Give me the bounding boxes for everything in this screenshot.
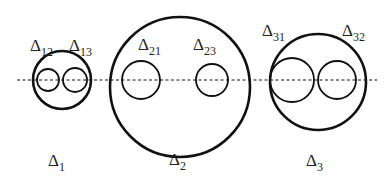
label-delta-1: Δ1 [48, 151, 65, 174]
label-delta-32: Δ32 [342, 21, 365, 44]
label-delta-12: Δ12 [30, 36, 53, 59]
label-delta-13: Δ13 [69, 36, 92, 59]
label-delta-2: Δ2 [169, 150, 186, 173]
label-delta-3: Δ3 [306, 151, 323, 174]
label-delta-23: Δ23 [193, 35, 216, 58]
label-delta-21: Δ21 [138, 35, 161, 58]
nested-circles-diagram: Δ12Δ13Δ1Δ21Δ23Δ2Δ31Δ32Δ3 [0, 0, 388, 183]
label-delta-31: Δ31 [262, 21, 285, 44]
outer-circle-2 [110, 17, 250, 157]
